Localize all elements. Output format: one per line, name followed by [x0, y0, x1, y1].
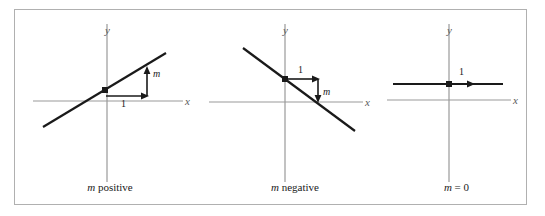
caption-symbol: m	[271, 181, 279, 193]
rise-arrow-head	[144, 66, 151, 74]
panel-m-zero-graphic	[385, 10, 528, 206]
x-axis-label: x	[185, 95, 190, 107]
caption-text: negative	[279, 181, 319, 193]
caption-m-zero: m = 0	[385, 181, 528, 193]
panel-m-negative-graphic	[205, 10, 385, 206]
caption-text: = 0	[452, 181, 469, 193]
figure-root: y x 1 m m positive	[0, 0, 545, 216]
run-arrow-head	[467, 81, 475, 88]
caption-symbol: m	[87, 181, 95, 193]
y-axis-label: y	[105, 24, 110, 36]
caption-m-negative: m negative	[205, 181, 385, 193]
run-label: 1	[459, 66, 464, 77]
caption-symbol: m	[444, 181, 452, 193]
panel-m-positive: y x 1 m m positive	[15, 10, 205, 206]
x-axis-label: x	[513, 94, 518, 106]
rise-label: m	[153, 68, 160, 79]
x-axis-label: x	[365, 96, 370, 108]
rise-label: m	[323, 86, 330, 97]
panel-m-positive-graphic	[15, 10, 205, 206]
caption-text: positive	[95, 181, 133, 193]
slope-line	[243, 48, 355, 131]
point-marker	[102, 87, 108, 93]
y-axis-label: y	[283, 24, 288, 36]
figure-frame: y x 1 m m positive	[14, 9, 527, 205]
caption-m-positive: m positive	[15, 181, 205, 193]
run-label: 1	[298, 64, 303, 75]
panel-m-zero: y x 1 m = 0	[385, 10, 528, 206]
panel-m-negative: y x 1 m m negative	[205, 10, 385, 206]
y-axis-label: y	[447, 24, 452, 36]
run-label: 1	[121, 98, 126, 109]
